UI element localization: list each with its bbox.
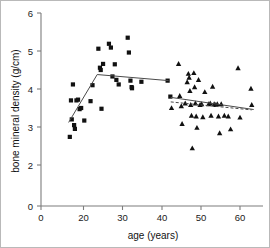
x-tick-label-20: 20 [78, 212, 89, 223]
data-point-square [68, 135, 72, 139]
data-point-square [109, 45, 113, 49]
data-point-triangle [192, 84, 197, 89]
data-point-square [101, 62, 105, 66]
data-point-square [71, 82, 75, 86]
data-point-triangle [187, 88, 192, 93]
data-point-square [72, 123, 76, 127]
x-tick-label-0: 0 [38, 212, 43, 223]
data-point-triangle [208, 113, 213, 118]
data-point-triangle [194, 125, 199, 130]
data-point-square [168, 95, 172, 99]
data-point-square [113, 62, 117, 66]
x-tick-label-30: 30 [117, 212, 128, 223]
y-axis-ticks [37, 13, 41, 206]
x-axis-title: age (years) [128, 230, 179, 241]
data-point-triangle [194, 114, 199, 119]
y-tick-label-3: 3 [28, 122, 33, 133]
x-tick-label-50: 50 [196, 212, 207, 223]
data-point-triangle [235, 65, 240, 70]
data-point-square [73, 127, 77, 131]
data-point-square [99, 107, 103, 111]
data-point-square [117, 82, 121, 86]
y-axis-tick-labels: 6 5 4 3 2 0 [28, 8, 33, 212]
data-point-triangle [202, 89, 207, 94]
data-point-triangle [228, 126, 233, 131]
data-point-triangle [196, 77, 201, 82]
data-point-triangle [190, 145, 195, 150]
data-point-triangle [179, 103, 184, 108]
chart-figure: 6 5 4 3 2 0 bone mineral density (g/cm) … [0, 0, 270, 248]
data-point-square [126, 36, 130, 40]
series-squares [68, 36, 173, 139]
data-point-square [139, 80, 143, 84]
data-points-layer [68, 36, 255, 151]
data-point-triangle [179, 121, 184, 126]
data-point-triangle [191, 70, 196, 75]
data-point-triangle [177, 93, 182, 98]
trend-lines-layer [69, 75, 254, 123]
data-point-square [99, 68, 103, 72]
data-point-triangle [237, 115, 242, 120]
data-point-square [114, 78, 118, 82]
data-point-square [96, 47, 100, 51]
data-point-triangle [169, 105, 174, 110]
x-tick-label-40: 40 [157, 212, 168, 223]
data-point-square [79, 106, 83, 110]
data-point-triangle [216, 114, 221, 119]
data-point-square [76, 98, 80, 102]
data-point-triangle [248, 86, 253, 91]
x-axis: 0 20 30 40 50 60 age (years) [38, 206, 263, 241]
data-point-square [88, 99, 92, 103]
x-axis-tick-labels: 0 20 30 40 50 60 [38, 212, 245, 223]
y-tick-label-2: 2 [28, 160, 33, 171]
data-point-triangle [186, 71, 191, 76]
younger-group-fit [69, 75, 169, 123]
x-tick-label-60: 60 [235, 212, 246, 223]
x-axis-ticks [41, 206, 240, 210]
data-point-triangle [249, 102, 254, 107]
data-point-triangle [210, 84, 215, 89]
scatter-plot: 6 5 4 3 2 0 bone mineral density (g/cm) … [1, 1, 270, 248]
y-tick-label-0: 0 [28, 201, 33, 212]
y-tick-label-5: 5 [28, 46, 33, 57]
data-point-square [130, 86, 134, 90]
data-point-triangle [226, 114, 231, 119]
y-axis-title: bone mineral density (g/cm) [10, 49, 21, 172]
data-point-square [127, 50, 131, 54]
data-point-triangle [222, 113, 227, 118]
data-point-triangle [189, 113, 194, 118]
y-axis: 6 5 4 3 2 0 bone mineral density (g/cm) [10, 8, 41, 212]
data-point-square [128, 79, 132, 83]
data-point-triangle [185, 79, 190, 84]
data-point-square [82, 118, 86, 122]
data-point-square [69, 98, 73, 102]
data-point-triangle [176, 61, 181, 66]
y-tick-label-4: 4 [28, 84, 33, 95]
data-point-triangle [217, 130, 222, 135]
data-point-triangle [200, 114, 205, 119]
y-tick-label-6: 6 [28, 8, 33, 19]
data-point-square [107, 42, 111, 46]
